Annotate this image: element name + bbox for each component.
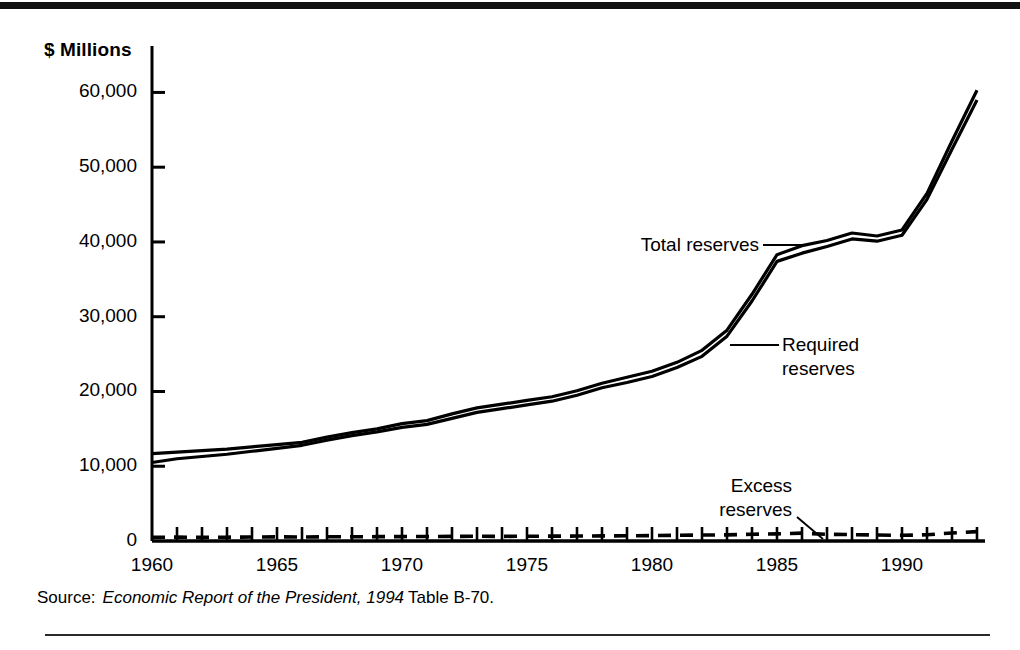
bottom-divider-rule: [45, 634, 990, 636]
series-line-required-reserves: [152, 100, 977, 463]
x-axis-tick-label: 1975: [482, 554, 572, 576]
y-axis-tick-label: 60,000: [19, 80, 137, 102]
x-axis-tick-label: 1970: [357, 554, 447, 576]
y-axis-tick-label: 50,000: [19, 155, 137, 177]
x-axis-tick-label: 1960: [107, 554, 197, 576]
source-tail: Table B-70.: [404, 588, 494, 607]
chart-plot-area: [0, 0, 1020, 650]
y-axis-tick-label: 30,000: [19, 305, 137, 327]
figure-container: $ Millions 010,00020,00030,00040,00050,0…: [0, 0, 1020, 650]
annotation-total-reserves: Total reserves: [609, 233, 759, 257]
y-axis-tick-label: 0: [19, 529, 137, 551]
x-axis-tick-label: 1980: [607, 554, 697, 576]
source-note: Source:Economic Report of the President,…: [37, 588, 494, 608]
x-axis-tick-label: 1990: [857, 554, 947, 576]
source-label: Source:: [37, 588, 96, 607]
x-axis-tick-label: 1985: [732, 554, 822, 576]
y-axis-tick-label: 10,000: [19, 454, 137, 476]
y-axis-tick-label: 20,000: [19, 379, 137, 401]
axes-group: [152, 46, 985, 541]
x-axis-tick-label: 1965: [232, 554, 322, 576]
annotation-excess-reserves: Excess reserves: [660, 474, 792, 522]
data-series-group: [152, 90, 977, 537]
y-axis-tick-label: 40,000: [19, 230, 137, 252]
source-title: Economic Report of the President, 1994: [96, 588, 404, 607]
annotation-required-reserves: Required reserves: [782, 333, 942, 381]
